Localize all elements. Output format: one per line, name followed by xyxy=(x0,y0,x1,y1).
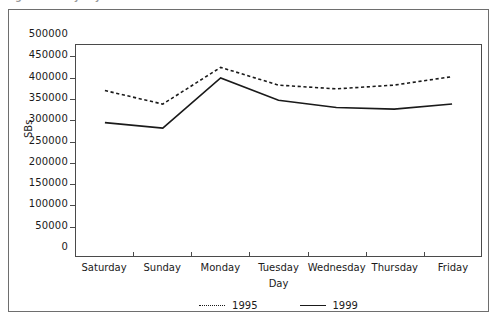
y-axis-tick-label: 200000 xyxy=(29,156,68,167)
x-axis-tick-mark xyxy=(133,252,134,257)
x-axis-tick-label: Tuesday xyxy=(258,262,299,273)
x-axis-tick-label: Saturday xyxy=(82,262,127,273)
y-axis-tick-label: 450000 xyxy=(29,49,68,60)
cropped-figure-title-text: Figure: SBs by day of week xyxy=(0,0,498,1)
legend-label: 1999 xyxy=(333,300,358,311)
x-axis-title: Day xyxy=(75,278,482,289)
x-axis-tick-label: Friday xyxy=(438,262,468,273)
legend-swatch-solid-icon xyxy=(300,302,326,309)
y-axis-ticks: 0500001000001500002000002500003000003500… xyxy=(9,10,75,311)
legend-entry-1999: 1999 xyxy=(300,300,358,311)
figure-frame: SBs 050000100000150000200000250000300000… xyxy=(8,9,489,312)
series-layer xyxy=(76,45,481,256)
y-axis-tick-label: 350000 xyxy=(29,92,68,103)
y-axis-tick-label: 100000 xyxy=(29,198,68,209)
y-axis-tick-label: 50000 xyxy=(35,220,68,231)
legend-entry-1995: 1995 xyxy=(199,300,257,311)
y-axis-tick-label: 300000 xyxy=(29,113,68,124)
x-axis-ticks: SaturdaySundayMondayTuesdayWednesdayThur… xyxy=(75,257,482,297)
y-axis-tick-label: 150000 xyxy=(29,177,68,188)
y-axis-tick-label: 400000 xyxy=(29,71,68,82)
x-axis-tick-mark xyxy=(424,252,425,257)
cropped-figure-title: Figure: SBs by day of week xyxy=(0,0,498,8)
x-axis-tick-mark xyxy=(308,252,309,257)
x-axis-tick-mark xyxy=(191,252,192,257)
x-axis-tick-label: Monday xyxy=(201,262,240,273)
chart-legend: 19951999 xyxy=(75,300,482,311)
y-axis-tick-label: 500000 xyxy=(29,28,68,39)
x-axis-tick-label: Thursday xyxy=(372,262,419,273)
x-axis-tick-label: Wednesday xyxy=(308,262,366,273)
x-axis-tick-label: Sunday xyxy=(143,262,180,273)
x-axis-tick-mark xyxy=(366,252,367,257)
plot-area xyxy=(75,44,482,257)
y-axis-tick-label: 0 xyxy=(61,241,68,252)
y-axis-tick-label: 250000 xyxy=(29,135,68,146)
x-axis-tick-mark xyxy=(249,252,250,257)
figure-container: Figure: SBs by day of week SBs 050000100… xyxy=(0,0,498,323)
legend-swatch-dotted-icon xyxy=(199,302,225,309)
series-line-1995 xyxy=(105,67,452,104)
legend-label: 1995 xyxy=(232,300,257,311)
